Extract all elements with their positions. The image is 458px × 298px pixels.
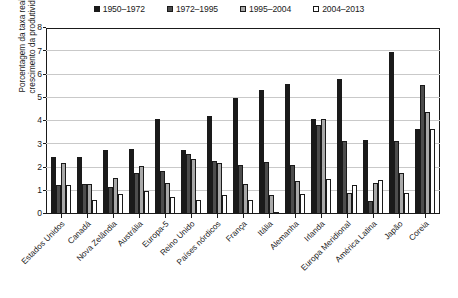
bar [321, 119, 326, 214]
chart-legend: 1950–19721972–19951995–20042004–2013 [0, 5, 458, 14]
bar [113, 178, 118, 214]
bar [425, 112, 430, 214]
x-axis-label: Itália [257, 220, 275, 238]
bar [196, 200, 201, 214]
bar [165, 183, 170, 214]
bar [155, 119, 160, 214]
bar-group [412, 28, 438, 214]
y-axis-tick-label: 1 [37, 186, 42, 195]
bar [285, 84, 290, 214]
legend-item: 1950–1972 [94, 5, 145, 14]
bar-group [282, 28, 308, 214]
bar-group [100, 28, 126, 214]
bar-group [308, 28, 334, 214]
legend-label: 1995–2004 [249, 5, 291, 14]
bar-group [178, 28, 204, 214]
legend-label: 1972–1995 [176, 5, 218, 14]
y-axis-tick-label: 4 [37, 117, 42, 126]
bar-group [48, 28, 74, 214]
legend-swatch-icon [313, 6, 319, 12]
bar [415, 129, 420, 214]
y-axis-tick-label: 3 [37, 140, 42, 149]
y-axis-title: Porcentagem da taxa real de crescimento … [16, 0, 40, 133]
bar [118, 194, 123, 214]
bar [368, 201, 373, 214]
bar [217, 163, 222, 214]
bar [399, 173, 404, 214]
legend-label: 2004–2013 [322, 5, 364, 14]
legend-swatch-icon [94, 6, 100, 12]
bar [269, 195, 274, 214]
bar [300, 194, 305, 214]
x-axis-label: Estados Unidos [20, 220, 66, 266]
x-axis-label: França [225, 220, 249, 244]
bar [259, 90, 264, 214]
bar [212, 161, 217, 214]
bar [430, 129, 435, 214]
bar-group [152, 28, 178, 214]
x-axis-label: Japão [383, 220, 405, 242]
bar [290, 165, 295, 214]
bar [243, 184, 248, 214]
bar [108, 187, 113, 214]
bar-group [126, 28, 152, 214]
bar [82, 184, 87, 214]
bar-group [386, 28, 412, 214]
bar [144, 191, 149, 214]
bar [347, 193, 352, 214]
bar [337, 79, 342, 214]
bar [103, 150, 108, 214]
bar [316, 125, 321, 215]
x-axis-label: Irlanda [303, 220, 327, 244]
legend-item: 1995–2004 [240, 5, 291, 14]
bar [394, 141, 399, 214]
bar [92, 200, 97, 214]
bar [66, 185, 71, 214]
legend-swatch-icon [240, 6, 246, 12]
bar [191, 159, 196, 214]
bar [222, 195, 227, 214]
legend-swatch-icon [167, 6, 173, 12]
bar-group [360, 28, 386, 214]
y-axis-tick-label: 6 [37, 70, 42, 79]
legend-item: 2004–2013 [313, 5, 364, 14]
bar [51, 157, 56, 214]
bar [160, 171, 165, 214]
bar [61, 163, 66, 214]
y-axis-tick-label: 8 [37, 24, 42, 33]
bar [207, 116, 212, 214]
bar [139, 166, 144, 214]
bar [295, 181, 300, 214]
x-axis-label: Coreia [408, 220, 431, 243]
bar [389, 52, 394, 214]
bar [326, 179, 331, 214]
y-axis-tick-label: 0 [37, 210, 42, 219]
bar [181, 150, 186, 214]
bar [363, 140, 368, 214]
bar-group [230, 28, 256, 214]
bar [186, 154, 191, 214]
plot-area: 012345678 [46, 28, 440, 214]
legend-item: 1972–1995 [167, 5, 218, 14]
bar-group [334, 28, 360, 214]
bar-group [74, 28, 100, 214]
bar [342, 141, 347, 214]
bar [311, 119, 316, 214]
bar [77, 157, 82, 214]
bar-groups [46, 28, 440, 214]
bar [404, 193, 409, 214]
bar [248, 200, 253, 214]
y-axis-tick-label: 7 [37, 47, 42, 56]
bar [134, 173, 139, 214]
bar [378, 180, 383, 214]
x-axis-labels: Estados UnidosCanadáNova ZelândiaAustrál… [46, 214, 440, 298]
y-axis-tick-label: 5 [37, 93, 42, 102]
productivity-growth-bar-chart: 1950–19721972–19951995–20042004–2013 Por… [0, 0, 458, 298]
bar-group [204, 28, 230, 214]
y-axis-tick-label: 2 [37, 163, 42, 172]
bar [264, 162, 269, 214]
legend-label: 1950–1972 [103, 5, 145, 14]
bar [420, 85, 425, 214]
bar [87, 184, 92, 214]
bar [233, 98, 238, 214]
